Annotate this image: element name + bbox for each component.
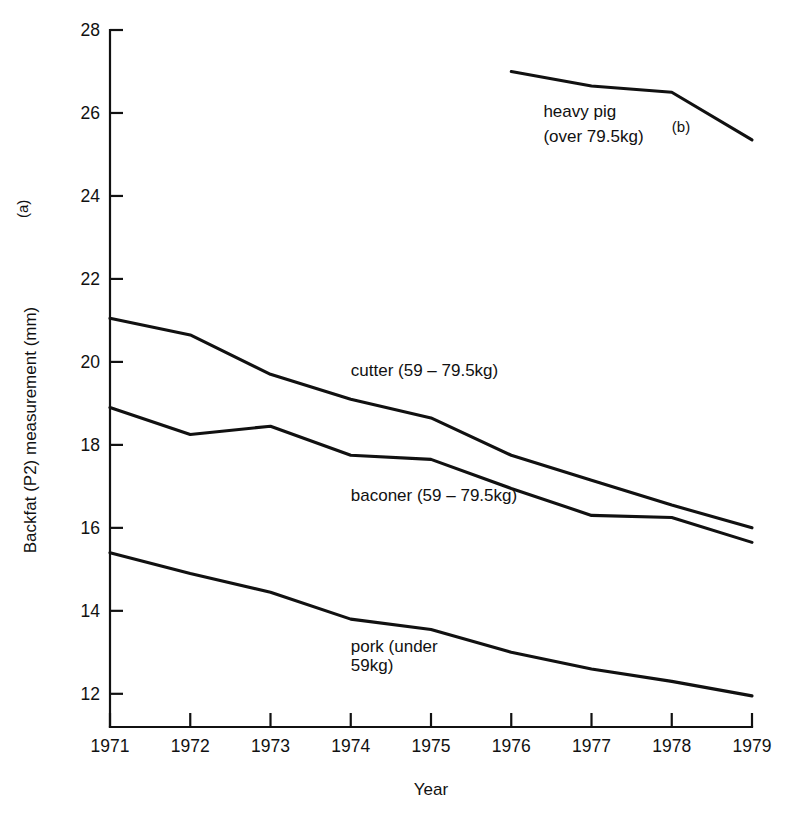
y-tick-label: 14 — [81, 601, 101, 621]
series-annotation: (b) — [672, 118, 690, 135]
x-axis-title: Year — [414, 780, 449, 799]
x-tick-label: 1979 — [733, 736, 772, 756]
series-line — [110, 553, 752, 696]
x-tick-label: 1974 — [331, 736, 370, 756]
series-annotations: cutter (59 – 79.5kg)baconer (59 – 79.5kg… — [351, 102, 690, 675]
series-annotation: heavy pig — [543, 102, 616, 121]
chart-container: Backfat (P2) measurement (mm) (a) 121416… — [0, 0, 790, 817]
y-axis-title-note: (a) — [14, 200, 31, 218]
y-tick-label: 22 — [81, 269, 100, 289]
x-tick-label: 1972 — [171, 736, 210, 756]
y-axis-title: Backfat (P2) measurement (mm) — [21, 307, 40, 554]
y-tick-label: 26 — [81, 103, 100, 123]
x-tick-label: 1976 — [492, 736, 531, 756]
y-tick-label: 28 — [81, 20, 100, 40]
x-tick-label: 1971 — [91, 736, 130, 756]
series-annotation: (over 79.5kg) — [543, 127, 643, 146]
x-axis-tick-labels: 197119721973197419751976197719781979 — [91, 736, 772, 756]
y-axis-title-group: Backfat (P2) measurement (mm) (a) — [14, 200, 40, 554]
x-axis-ticks — [110, 713, 752, 727]
series-annotation: cutter (59 – 79.5kg) — [351, 361, 498, 380]
series-annotation: 59kg) — [351, 656, 394, 675]
series-lines — [110, 71, 752, 695]
y-tick-label: 16 — [81, 518, 100, 538]
x-tick-label: 1977 — [572, 736, 611, 756]
y-tick-label: 12 — [81, 684, 100, 704]
series-annotation: pork (under — [351, 637, 438, 656]
x-tick-label: 1975 — [412, 736, 451, 756]
y-tick-label: 20 — [81, 352, 101, 372]
x-tick-label: 1978 — [652, 736, 691, 756]
series-line — [110, 408, 752, 543]
y-tick-label: 24 — [81, 186, 101, 206]
y-axis-tick-labels: 121416182022242628 — [81, 20, 101, 704]
y-axis-ticks — [110, 30, 123, 694]
x-tick-label: 1973 — [251, 736, 290, 756]
line-chart: Backfat (P2) measurement (mm) (a) 121416… — [0, 0, 790, 817]
y-tick-label: 18 — [81, 435, 100, 455]
series-annotation: baconer (59 – 79.5kg) — [351, 486, 517, 505]
